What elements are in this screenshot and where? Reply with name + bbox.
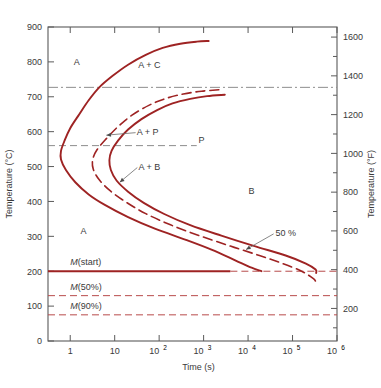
left-axis-tick-label: 600	[27, 127, 42, 137]
label-austenite-upper: A	[74, 57, 80, 67]
right-axis-tick-label: 1400	[343, 71, 363, 81]
right-axis-tick-label: 200	[343, 304, 358, 314]
label-a-plus-p: A + P	[137, 127, 159, 137]
curve-transformation-start	[60, 41, 261, 271]
left-axis-tick-label: 700	[27, 92, 42, 102]
m-90-label: M(90%)	[70, 301, 102, 311]
m-50-label-text: M(50%)	[70, 282, 102, 292]
x-tick-exponent: 2	[163, 344, 167, 351]
x-tick-base: 10	[327, 346, 337, 356]
left-axis-title: Temperature (°C)	[4, 149, 14, 218]
right-axis-title: Temperature (°F)	[366, 150, 376, 218]
x-tick-base: 10	[110, 346, 120, 356]
x-axis-tick-label: 106	[327, 344, 345, 357]
x-tick-base: 10	[238, 346, 248, 356]
m-50-label: M(50%)	[70, 282, 102, 292]
right-axis-tick-label: 800	[343, 187, 358, 197]
x-tick-exponent: 5	[297, 344, 301, 351]
x-axis-tick-label: 104	[238, 344, 256, 357]
left-axis-tick-label: 500	[27, 162, 42, 172]
right-axis-tick-label: 600	[343, 226, 358, 236]
plot-frame	[48, 27, 337, 341]
x-tick-base: 10	[149, 346, 159, 356]
right-axis-tick-label: 1000	[343, 149, 363, 159]
right-axis-tick-label: 1200	[343, 110, 363, 120]
left-axis-tick-label: 300	[27, 232, 42, 242]
x-axis-tick-label: 102	[149, 344, 167, 357]
x-axis-title: Time (s)	[182, 362, 215, 372]
curve-transformation-finish	[109, 95, 316, 273]
x-tick-exponent: 6	[341, 344, 345, 351]
label-bainite: B	[249, 186, 255, 196]
m-90-label-text: M(90%)	[70, 301, 102, 311]
x-tick-base: 10	[283, 346, 293, 356]
left-axis-tick-label: 800	[27, 57, 42, 67]
m-start-label: M(start)	[70, 257, 101, 267]
m-start-label-text: M(start)	[70, 257, 101, 267]
x-axis-tick-label: 1	[68, 346, 73, 356]
label-a-plus-c: A + C	[138, 60, 161, 70]
x-tick-exponent: 3	[208, 344, 212, 351]
x-tick-base: 10	[194, 346, 204, 356]
x-axis-tick-label: 103	[194, 344, 212, 357]
label-a-plus-b: A + B	[138, 162, 160, 172]
x-tick-exponent: 4	[252, 344, 256, 351]
left-axis-tick-label: 100	[27, 301, 42, 311]
left-axis-tick-label: 400	[27, 197, 42, 207]
right-axis-tick-label: 400	[343, 265, 358, 275]
x-tick-base: 1	[68, 346, 73, 356]
x-axis-tick-label: 10	[110, 346, 120, 356]
ttt-diagram-svg: 0100200300400500600700800900200400600800…	[0, 0, 381, 388]
label-fifty-percent: 50 %	[275, 228, 296, 238]
label-pearlite: P	[199, 135, 205, 145]
left-axis-tick-label: 200	[27, 267, 42, 277]
right-axis-tick-label: 1600	[343, 32, 363, 42]
ttt-diagram-figure: 0100200300400500600700800900200400600800…	[0, 0, 381, 388]
left-axis-tick-label: 900	[27, 22, 42, 32]
label-austenite-lower: A	[81, 226, 87, 236]
x-axis-tick-label: 105	[283, 344, 301, 357]
left-axis-tick-label: 0	[37, 336, 42, 346]
